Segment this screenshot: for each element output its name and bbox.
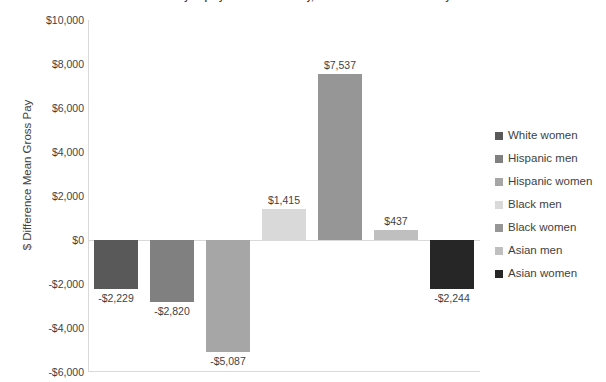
- legend-item-label: Black women: [508, 221, 576, 234]
- legend-item[interactable]: Asian men: [495, 239, 603, 262]
- plot-area: -$2,229-$2,820-$5,087$1,415$7,537$437-$2…: [88, 20, 480, 372]
- legend-item[interactable]: Hispanic men: [495, 147, 603, 170]
- y-axis-tick-label: $6,000: [0, 103, 84, 113]
- bar[interactable]: [430, 240, 474, 289]
- legend-item-label: Hispanic women: [508, 175, 592, 188]
- bar-value-label: -$2,244: [416, 292, 488, 304]
- legend-item-label: Asian women: [508, 267, 577, 280]
- y-axis-tick-label: -$6,000: [0, 367, 84, 377]
- bar-group: -$2,244: [424, 20, 480, 372]
- y-axis-tick-label: $4,000: [0, 147, 84, 157]
- bar[interactable]: [374, 230, 418, 240]
- bar-group: -$2,229: [88, 20, 144, 372]
- bar-group: $7,537: [312, 20, 368, 372]
- y-axis-tick-label: $10,000: [0, 15, 84, 25]
- bar-value-label: -$5,087: [192, 355, 264, 367]
- legend-color-swatch-icon: [495, 247, 503, 255]
- legend-item[interactable]: Asian women: [495, 262, 603, 285]
- bar-chart: Mean Gender Pay Gap by Race and Ethnicit…: [0, 0, 606, 382]
- bar[interactable]: [262, 209, 306, 240]
- legend-color-swatch-icon: [495, 178, 503, 186]
- legend-item-label: White women: [508, 129, 578, 142]
- legend-item[interactable]: Black men: [495, 193, 603, 216]
- y-axis-tick-labels: $10,000$8,000$6,000$4,000$2,000$0-$2,000…: [0, 0, 84, 382]
- y-axis-tick-label: $8,000: [0, 59, 84, 69]
- y-axis-tick-label: -$2,000: [0, 279, 84, 289]
- y-axis-tick-label: $2,000: [0, 191, 84, 201]
- legend-color-swatch-icon: [495, 201, 503, 209]
- legend-item-label: Asian men: [508, 244, 562, 257]
- bar-value-label: -$2,229: [80, 292, 152, 304]
- bar-value-label: $7,537: [304, 59, 376, 71]
- legend-item-label: Hispanic men: [508, 152, 578, 165]
- bar[interactable]: [206, 240, 250, 352]
- legend-item[interactable]: Hispanic women: [495, 170, 603, 193]
- bar[interactable]: [318, 74, 362, 240]
- bar[interactable]: [94, 240, 138, 289]
- chart-legend: White womenHispanic menHispanic womenBla…: [495, 124, 603, 285]
- chart-title: Mean Gender Pay Gap by Race and Ethnicit…: [80, 0, 480, 3]
- y-axis-tick-label: $0: [0, 235, 84, 245]
- legend-item[interactable]: Black women: [495, 216, 603, 239]
- bar[interactable]: [150, 240, 194, 302]
- bar-value-label: $1,415: [248, 194, 320, 206]
- bar-value-label: -$2,820: [136, 305, 208, 317]
- bar-value-label: $437: [360, 215, 432, 227]
- bar-group: -$2,820: [144, 20, 200, 372]
- y-axis-tick-label: -$4,000: [0, 323, 84, 333]
- legend-color-swatch-icon: [495, 155, 503, 163]
- legend-color-swatch-icon: [495, 270, 503, 278]
- bar-group: $1,415: [256, 20, 312, 372]
- legend-color-swatch-icon: [495, 132, 503, 140]
- legend-color-swatch-icon: [495, 224, 503, 232]
- bar-group: $437: [368, 20, 424, 372]
- legend-item-label: Black men: [508, 198, 562, 211]
- legend-item[interactable]: White women: [495, 124, 603, 147]
